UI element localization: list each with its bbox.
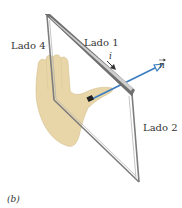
figure-canvas: Lado 4 Lado 1 Lado 2 i n (b) [0, 0, 182, 208]
label-side-1: Lado 1 [84, 38, 119, 48]
label-current-i: i [109, 52, 112, 61]
right-hand-illustration [36, 55, 113, 147]
loop-diagram [0, 0, 182, 208]
panel-label: (b) [7, 195, 20, 204]
label-side-4: Lado 4 [11, 41, 46, 51]
label-normal-n: n [159, 61, 165, 70]
label-side-2: Lado 2 [143, 123, 178, 133]
